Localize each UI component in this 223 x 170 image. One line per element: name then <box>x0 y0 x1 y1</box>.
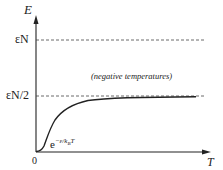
y-axis-label: E <box>24 2 32 18</box>
origin-label: 0 <box>32 155 37 166</box>
y-axis-arrow-icon <box>34 15 39 24</box>
plot-canvas <box>0 0 223 170</box>
negative-temperatures-label: (negative temperatures) <box>91 71 172 81</box>
boltzmann-factor-label: e−ε/kBT <box>50 137 74 150</box>
x-axis-label: T <box>207 155 214 170</box>
eps-n-half-label: εN/2 <box>6 88 29 103</box>
boltzmann-exponent: −ε/k <box>55 137 68 145</box>
energy-temperature-diagram: E εN εN/2 (negative temperatures) e−ε/kB… <box>0 0 223 170</box>
boltzmann-temperature: T <box>71 137 75 145</box>
eps-n-label: εN <box>15 32 29 47</box>
x-axis-arrow-icon <box>202 150 211 155</box>
